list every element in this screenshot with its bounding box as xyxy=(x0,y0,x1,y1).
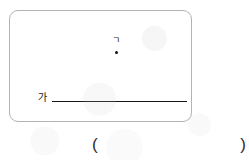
point-dot-marker xyxy=(115,51,118,54)
answer-blank[interactable]: ( ) xyxy=(92,131,249,158)
point-label: ㄱ xyxy=(112,35,120,45)
line-label: 가 xyxy=(38,92,47,104)
open-paren: ( xyxy=(92,135,98,155)
figure-frame: ㄱ 가 xyxy=(9,10,192,122)
horizontal-line-segment xyxy=(52,101,187,102)
close-paren: ) xyxy=(240,135,246,155)
